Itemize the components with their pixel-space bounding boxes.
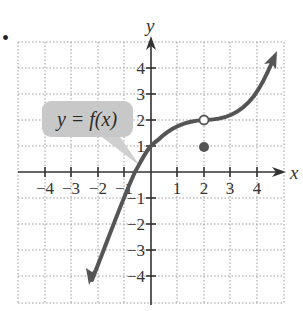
- x-tick-labels: −4 −3 −2 −1 1 2 3 4: [36, 179, 262, 198]
- function-curve: [92, 60, 273, 280]
- closed-point: [199, 142, 209, 152]
- svg-text:2: 2: [200, 179, 209, 198]
- svg-text:4: 4: [253, 179, 262, 198]
- svg-text:−3: −3: [127, 241, 145, 260]
- svg-text:−2: −2: [127, 215, 145, 234]
- function-graph: •: [0, 0, 303, 311]
- svg-text:3: 3: [137, 85, 146, 104]
- y-axis-label: y: [144, 15, 155, 36]
- svg-text:−4: −4: [36, 179, 55, 198]
- svg-text:4: 4: [137, 59, 146, 78]
- svg-text:3: 3: [226, 179, 235, 198]
- x-axis: [18, 167, 280, 177]
- x-axis-label: x: [289, 162, 299, 183]
- svg-text:−3: −3: [62, 179, 80, 198]
- open-point: [200, 116, 209, 125]
- svg-text:−2: −2: [89, 179, 107, 198]
- svg-text:−1: −1: [127, 189, 145, 208]
- bullet: •: [2, 27, 9, 49]
- svg-text:1: 1: [173, 179, 182, 198]
- svg-text:2: 2: [137, 111, 146, 130]
- function-label-callout: y = f(x): [42, 101, 140, 166]
- svg-text:−4: −4: [127, 267, 146, 286]
- function-label: y = f(x): [55, 108, 117, 131]
- curve-arrow-down-icon: [86, 266, 99, 285]
